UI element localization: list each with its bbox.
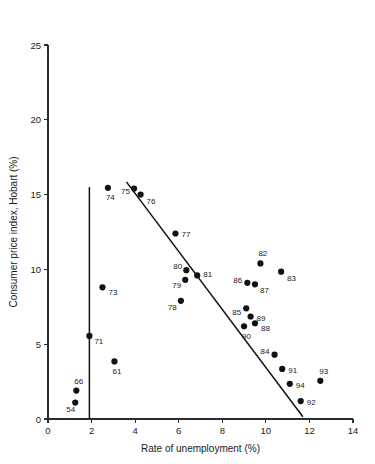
data-point-label: 93: [319, 367, 328, 376]
data-point-label: 61: [112, 367, 121, 376]
regression-line: [126, 182, 302, 417]
data-point-label: 90: [242, 332, 251, 341]
x-tick-label: 10: [261, 425, 272, 436]
data-point-label: 86: [233, 276, 242, 285]
data-point: [178, 298, 184, 304]
data-point: [86, 333, 92, 339]
data-point-label: 92: [307, 398, 316, 407]
x-axis-title: Rate of unemployment (%): [141, 443, 260, 454]
data-point-label: 78: [168, 303, 177, 312]
data-point-label: 80: [173, 262, 182, 271]
data-point: [257, 260, 263, 266]
data-point: [243, 305, 249, 311]
x-tick-label: 6: [176, 425, 181, 436]
axis-titles: Rate of unemployment (%)Consumer price i…: [8, 156, 260, 454]
data-point: [278, 269, 284, 275]
data-point: [194, 272, 200, 278]
scatter-plot-figure: 024681012140510152025 546671617374757677…: [0, 0, 375, 464]
y-tick-label: 25: [30, 40, 41, 51]
x-tick-label: 0: [45, 425, 50, 436]
data-point-label: 76: [147, 197, 156, 206]
data-point-label: 94: [296, 381, 305, 390]
x-tick-label: 8: [220, 425, 225, 436]
data-point-label: 66: [74, 377, 83, 386]
data-point-label: 81: [203, 270, 212, 279]
y-axis-title: Consumer price index, Hobart (%): [8, 156, 19, 307]
x-tick-label: 12: [304, 425, 315, 436]
point-labels: 5466716173747576777879808182838485868788…: [66, 187, 329, 414]
data-point: [131, 186, 137, 192]
y-tick-label: 15: [30, 189, 41, 200]
data-point-label: 88: [261, 324, 270, 333]
data-point-label: 74: [106, 193, 115, 202]
data-point-label: 73: [108, 288, 117, 297]
data-point: [298, 398, 304, 404]
data-point: [99, 284, 105, 290]
data-point-label: 85: [232, 308, 241, 317]
y-tick-label: 20: [30, 114, 41, 125]
data-point: [172, 230, 178, 236]
y-tick-label: 5: [36, 339, 41, 350]
y-tick-label: 0: [36, 414, 41, 425]
data-point: [244, 280, 250, 286]
data-point: [73, 387, 79, 393]
data-point-label: 89: [257, 314, 266, 323]
data-point-label: 82: [258, 249, 267, 258]
data-point-label: 54: [66, 405, 75, 414]
data-point-label: 87: [260, 286, 269, 295]
y-tick-label: 10: [30, 264, 41, 275]
data-point: [287, 381, 293, 387]
data-point: [248, 313, 254, 319]
x-tick-label: 14: [348, 425, 359, 436]
data-point: [183, 267, 189, 273]
data-point-label: 91: [288, 366, 297, 375]
data-point: [317, 378, 323, 384]
data-point: [105, 185, 111, 191]
x-tick-label: 2: [89, 425, 94, 436]
data-point-label: 84: [261, 347, 270, 356]
data-point-label: 75: [121, 187, 130, 196]
data-point: [241, 323, 247, 329]
x-tick-label: 4: [132, 425, 137, 436]
data-point-label: 83: [287, 274, 296, 283]
plot-canvas: 024681012140510152025 546671617374757677…: [0, 0, 375, 464]
data-point: [137, 192, 143, 198]
trend-lines: [89, 182, 303, 419]
data-point-label: 79: [172, 281, 181, 290]
data-point: [111, 358, 117, 364]
data-point: [271, 352, 277, 358]
data-point-label: 71: [94, 337, 103, 346]
data-point: [279, 366, 285, 372]
data-point-label: 77: [181, 230, 190, 239]
data-point: [252, 281, 258, 287]
data-point: [182, 277, 188, 283]
